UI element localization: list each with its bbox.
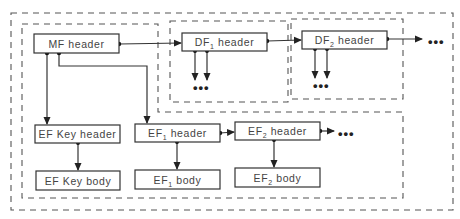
node-df1-header: DF1 header	[182, 33, 267, 51]
node-label: EF1 body	[154, 174, 202, 188]
node-label: EF2 header	[248, 125, 307, 139]
ellipsis-df2-children: •••	[313, 78, 330, 93]
ellipsis-ef-next: •••	[338, 126, 355, 141]
node-ef1-header: EF1 header	[135, 124, 220, 142]
node-ef-key-header: EF Key header	[35, 125, 120, 143]
node-label: EF2 body	[254, 172, 302, 186]
node-mf-header: MF header	[34, 34, 119, 53]
edge-mf-df1	[119, 43, 181, 44]
node-label: EF Key header	[39, 128, 117, 140]
node-ef1-body: EF1 body	[135, 170, 220, 189]
node-label: EF Key body	[45, 175, 112, 187]
node-ef-key-body: EF Key body	[36, 171, 120, 190]
node-ef2-header: EF2 header	[235, 122, 320, 140]
file-structure-diagram: MF header DF1 header DF2 header EF Key h…	[0, 0, 460, 219]
edge-mf-ef1	[59, 53, 147, 123]
node-label: DF2 header	[315, 34, 375, 48]
node-ef2-body: EF2 body	[235, 168, 320, 187]
node-label: EF1 header	[148, 127, 207, 141]
node-label: MF header	[48, 38, 104, 50]
ellipsis-df1-children: •••	[193, 80, 210, 95]
node-df2-header: DF2 header	[302, 31, 387, 49]
edge-df1-df2	[267, 40, 301, 41]
ellipsis-df-next: •••	[428, 34, 445, 49]
node-label: DF1 header	[195, 36, 255, 50]
